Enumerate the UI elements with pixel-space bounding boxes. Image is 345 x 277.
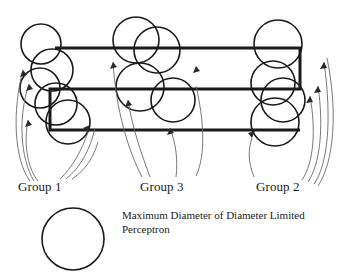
max-diameter-circle <box>42 208 104 270</box>
legend-caption-line-1: Maximum Diameter of Diameter Limited <box>122 209 332 223</box>
figure-container: Group 1 Group 3 Group 2 Maximum Diameter… <box>0 0 345 277</box>
group-1-arrowhead-3 <box>25 120 32 127</box>
group-3-arrowhead-1 <box>110 62 117 69</box>
group-3-circles <box>113 17 195 122</box>
group-2-arrowhead-2 <box>306 96 313 103</box>
group-1-circles <box>20 24 90 144</box>
group-2-leaders <box>249 58 333 186</box>
group-1-circle-1 <box>21 24 61 64</box>
group-1-leader-5 <box>66 128 95 179</box>
serpentine-shape <box>50 48 300 130</box>
group-3-label: Group 3 <box>140 179 184 195</box>
legend-caption: Maximum Diameter of Diameter Limited Per… <box>122 209 332 236</box>
group-2-circles <box>251 20 305 146</box>
group-3-leader-3 <box>170 128 177 177</box>
group-3-arrowhead-4 <box>193 66 200 73</box>
group-2-label: Group 2 <box>256 179 300 195</box>
legend-caption-line-2: Perceptron <box>122 223 332 237</box>
group-1-leader-6 <box>72 142 98 179</box>
group-3-arrowhead-2 <box>125 100 132 107</box>
group-2-arrowhead-3 <box>314 86 321 93</box>
group-1-leader-3 <box>26 120 38 181</box>
group-3-circle-4 <box>151 78 195 122</box>
group-1-arrowhead-2 <box>26 84 33 91</box>
group-1-circle-2 <box>31 49 73 91</box>
group-2-leader-1 <box>249 138 254 177</box>
group-3-leaders <box>113 62 203 177</box>
group-2-arrowhead-4 <box>320 62 327 69</box>
group-1-label: Group 1 <box>18 179 62 195</box>
group-3-circle-3 <box>116 63 164 111</box>
